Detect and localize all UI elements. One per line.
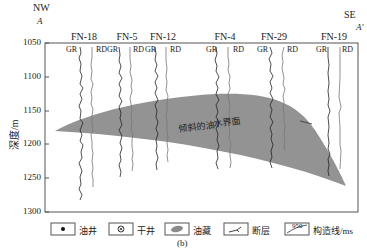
y-tick: 1300	[9, 206, 41, 216]
well-label-fn4: FN-4	[205, 31, 245, 42]
legend-contour: 构造线/ms	[313, 224, 353, 237]
y-axis-ticks	[45, 43, 49, 212]
y-tick: 1150	[9, 105, 41, 115]
oil-well-icon	[61, 227, 65, 231]
gr-label: GR	[316, 45, 327, 54]
section-end-label: A'	[356, 22, 363, 32]
oil-reservoir-body	[55, 94, 346, 186]
well-label-fn12: FN-12	[143, 31, 183, 42]
reservoir-icon	[171, 225, 184, 233]
fault-icon	[229, 227, 241, 232]
gr-label: GR	[257, 45, 268, 54]
gr-label: GR	[107, 45, 118, 54]
y-tick: 1100	[9, 71, 41, 81]
legend-reservoir: 油藏	[193, 224, 211, 237]
legend-contour-value: 950	[292, 222, 303, 230]
rd-label: RD	[342, 45, 353, 54]
rd-label: RD	[233, 45, 244, 54]
y-tick: 1050	[9, 37, 41, 47]
y-axis-label: 深度/m	[6, 119, 21, 150]
section-start-label: A	[37, 16, 43, 26]
direction-se: SE	[344, 9, 356, 20]
rd-label: RD	[96, 45, 107, 54]
legend-oil-well: 油井	[79, 224, 97, 237]
well-label-fn19: FN-19	[314, 31, 354, 42]
direction-nw: NW	[33, 2, 50, 13]
gr-label: GR	[66, 45, 77, 54]
y-tick: 1250	[9, 172, 41, 182]
rd-label: RD	[170, 45, 181, 54]
gr-label: GR	[145, 45, 156, 54]
rd-label: RD	[133, 45, 144, 54]
well-label-fn29: FN-29	[254, 31, 294, 42]
legend-dry-well: 干井	[137, 224, 155, 237]
rd-label: RD	[287, 45, 298, 54]
gr-label: GR	[206, 45, 217, 54]
figure-caption: (b)	[177, 238, 188, 248]
legend-fault: 断层	[252, 224, 270, 237]
well-label-fn18: FN-18	[64, 31, 104, 42]
well-label-fn5: FN-5	[107, 31, 147, 42]
